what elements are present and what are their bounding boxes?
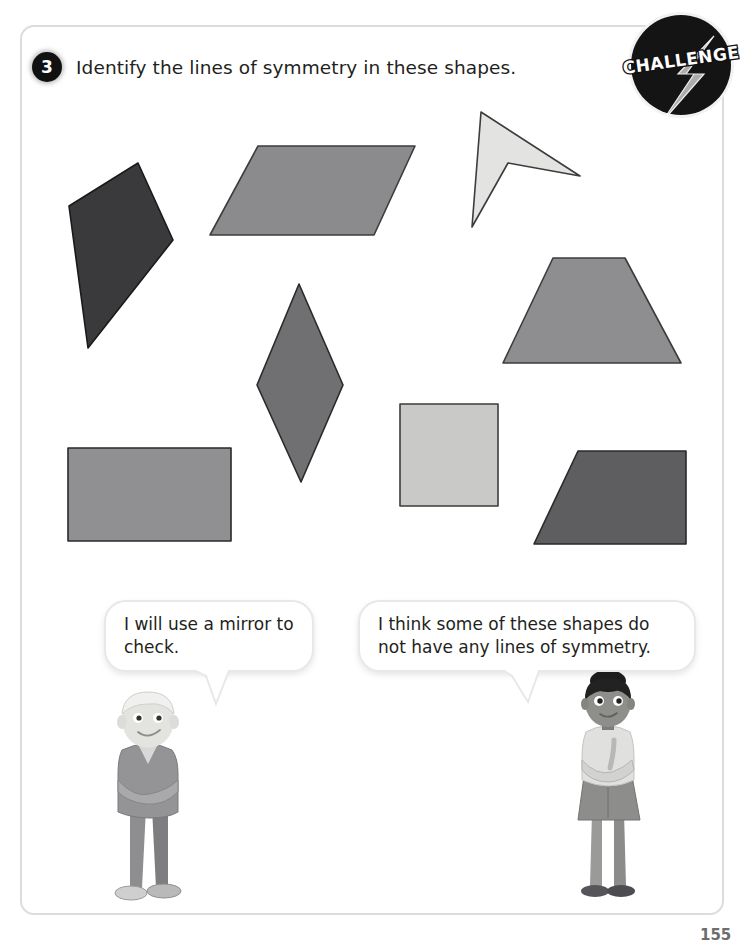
girl-speech-bubble: I think some of these shapes do not have…: [358, 600, 696, 672]
boy-right-leg: [152, 808, 168, 888]
girl-speech-bubble-tail: [494, 668, 554, 708]
boy-character: [84, 688, 214, 914]
boy-speech-bubble-text: I will use a mirror to check.: [106, 613, 312, 659]
boy-speech-bubble: I will use a mirror to check.: [104, 600, 314, 672]
girl-speech-bubble-text: I think some of these shapes do not have…: [360, 613, 694, 659]
girl-right-shoe: [607, 885, 635, 897]
boy-right-ear: [169, 715, 179, 729]
girl-character: [552, 672, 664, 916]
challenge-badge: CHALLENGE: [618, 8, 744, 134]
question-header: 3 Identify the lines of symmetry in thes…: [32, 52, 516, 82]
boy-left-shoe: [115, 886, 147, 900]
girl-left-ear: [581, 698, 589, 710]
question-text: Identify the lines of symmetry in these …: [76, 57, 516, 78]
boy-left-leg: [130, 808, 146, 888]
page-number: 155: [700, 926, 731, 944]
question-number-badge: 3: [32, 52, 62, 82]
girl-right-leg: [614, 812, 626, 886]
girl-right-ear: [627, 698, 635, 710]
boy-left-ear: [117, 715, 127, 729]
girl-left-shoe: [581, 885, 609, 897]
girl-left-leg: [590, 812, 602, 886]
boy-right-shoe: [147, 884, 181, 898]
